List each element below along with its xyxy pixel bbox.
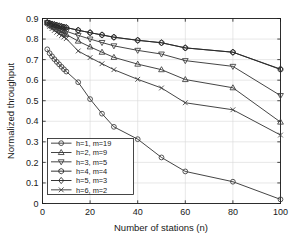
y-tick-label: 0.4	[26, 116, 39, 126]
x-axis-label: Number of stations (n)	[114, 222, 208, 233]
y-tick-label: 0.9	[26, 14, 39, 24]
y-tick-label: 0.3	[26, 137, 39, 147]
legend-item-label: h=2, m=9	[76, 148, 107, 157]
y-tick-label: 0.2	[26, 158, 39, 168]
y-axis-label: Normalized throughput	[5, 63, 16, 159]
legend-item-label: h=4, m=4	[76, 167, 107, 176]
x-tick-label: 60	[180, 207, 190, 217]
line-chart: 020406080100 00.10.20.30.40.50.60.70.80.…	[0, 0, 295, 238]
x-tick-label: 80	[228, 207, 238, 217]
y-tick-label: 0.7	[26, 55, 39, 65]
x-tick-label: 0	[40, 207, 45, 217]
chart-legend[interactable]: h=1, m=19h=2, m=9h=3, m=5h=4, m=4h=5, m=…	[48, 139, 134, 195]
x-tick-label: 20	[85, 207, 95, 217]
legend-item-label: h=1, m=19	[76, 139, 111, 148]
y-tick-label: 0.1	[26, 178, 39, 188]
chart-figure: 020406080100 00.10.20.30.40.50.60.70.80.…	[0, 0, 295, 238]
legend-item-label: h=5, m=3	[76, 176, 107, 185]
legend-item-label: h=3, m=5	[76, 158, 107, 167]
y-tick-label: 0.5	[26, 96, 39, 106]
y-tick-label: 0.8	[26, 34, 39, 44]
legend-item-label: h=6, m=2	[76, 186, 107, 195]
x-tick-label: 100	[273, 207, 288, 217]
y-tick-label: 0	[33, 199, 38, 209]
x-tick-label: 40	[133, 207, 143, 217]
y-tick-label: 0.6	[26, 75, 39, 85]
